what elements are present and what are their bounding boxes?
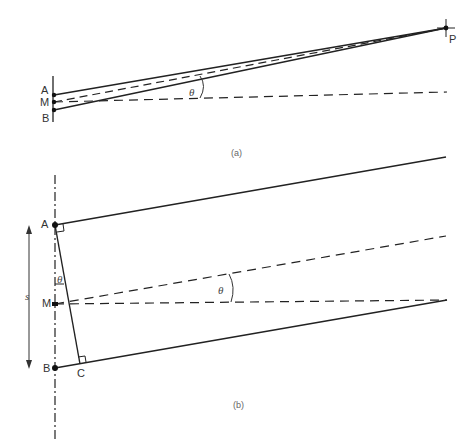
label-s: s bbox=[25, 290, 29, 302]
figure-a: A M B P θ (a) bbox=[40, 19, 456, 158]
label-b: B bbox=[42, 112, 49, 124]
label-a: A bbox=[41, 218, 49, 230]
point-a bbox=[52, 222, 58, 228]
label-c: C bbox=[77, 367, 85, 379]
ray-from-b bbox=[55, 300, 447, 368]
point-b bbox=[52, 108, 56, 112]
arrow-down-icon bbox=[26, 360, 32, 369]
ray-b-to-p bbox=[54, 28, 446, 110]
diagram-canvas: A M B P θ (a) A M bbox=[0, 0, 475, 447]
label-theta-b: θ bbox=[218, 284, 224, 296]
label-m: M bbox=[42, 297, 51, 309]
ray-from-a bbox=[55, 157, 446, 225]
dashed-horizontal-b bbox=[55, 300, 447, 304]
point-a bbox=[52, 93, 56, 97]
dashed-ray-from-m bbox=[55, 236, 446, 304]
label-p: P bbox=[449, 33, 456, 45]
angle-arc-b bbox=[229, 274, 233, 302]
right-angle-a bbox=[57, 224, 64, 232]
arrow-up-icon bbox=[26, 225, 32, 234]
figure-b: A M B C θ θ s (b) bbox=[25, 157, 447, 440]
point-m bbox=[52, 302, 58, 306]
caption-a: (a) bbox=[231, 148, 242, 158]
segment-a-c bbox=[55, 225, 80, 364]
point-b bbox=[52, 365, 58, 371]
label-a: A bbox=[41, 84, 49, 96]
caption-b: (b) bbox=[233, 400, 244, 410]
point-m bbox=[52, 100, 56, 104]
dashed-m-to-p bbox=[54, 28, 446, 102]
label-b: B bbox=[43, 362, 50, 374]
ray-a-to-p bbox=[54, 28, 446, 95]
label-m: M bbox=[40, 96, 49, 108]
point-p bbox=[444, 26, 449, 31]
label-theta-small: θ bbox=[57, 273, 63, 285]
label-theta-a: θ bbox=[189, 86, 195, 98]
